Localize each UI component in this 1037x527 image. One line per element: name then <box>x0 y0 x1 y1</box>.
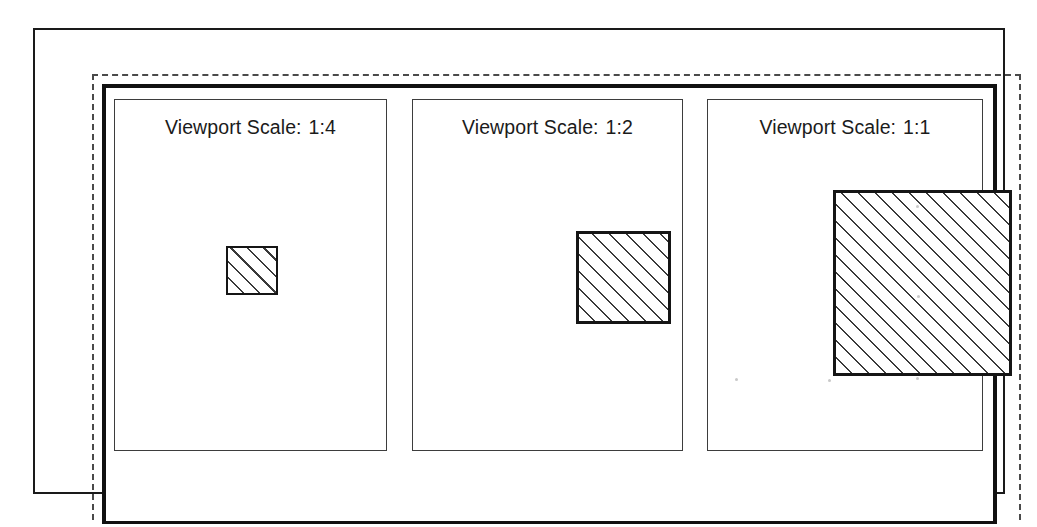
viewport-2-scale-value: 1:2 <box>606 116 633 138</box>
viewport-2-label-prefix: Viewport Scale: <box>462 116 599 138</box>
viewport-panel-2[interactable]: Viewport Scale:1:2 <box>412 99 683 451</box>
viewport-1-label-prefix: Viewport Scale: <box>165 116 302 138</box>
viewport-panel-1[interactable]: Viewport Scale:1:4 <box>114 99 387 451</box>
viewport-2-hatched-rectangle[interactable] <box>576 231 671 324</box>
viewport-1-hatched-rectangle[interactable] <box>226 246 278 295</box>
viewport-1-label: Viewport Scale:1:4 <box>115 116 386 138</box>
viewport-3-hatched-rectangle[interactable] <box>833 190 1012 376</box>
drawing-sheet: Viewport Scale:1:4 Viewport Scale:1:2 Vi… <box>0 0 1037 527</box>
viewport-3-label: Viewport Scale:1:1 <box>708 116 982 138</box>
viewport-panel-row: Viewport Scale:1:4 Viewport Scale:1:2 Vi… <box>114 99 983 451</box>
viewport-panel-3[interactable]: Viewport Scale:1:1 <box>707 99 983 451</box>
sheet-outer-border: Viewport Scale:1:4 Viewport Scale:1:2 Vi… <box>33 28 1005 494</box>
viewport-3-label-prefix: Viewport Scale: <box>759 116 896 138</box>
viewport-1-scale-value: 1:4 <box>309 116 336 138</box>
viewport-2-label: Viewport Scale:1:2 <box>413 116 682 138</box>
viewport-3-scale-value: 1:1 <box>903 116 930 138</box>
